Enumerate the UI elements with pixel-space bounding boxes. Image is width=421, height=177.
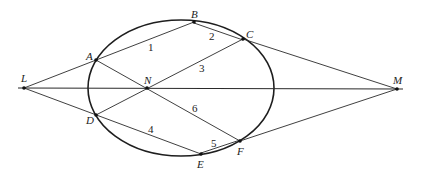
segment-label-2: 2 (209, 30, 215, 42)
segment-label-4: 4 (148, 123, 154, 135)
chord-EF (201, 140, 240, 153)
point-E (199, 152, 203, 156)
label-E: E (196, 158, 204, 170)
label-B: B (191, 8, 198, 20)
point-N (145, 86, 149, 90)
point-D (94, 113, 98, 117)
line-FM (240, 89, 397, 141)
label-D: D (85, 114, 94, 126)
line-CM (243, 39, 397, 89)
line-LM (18, 88, 403, 89)
label-M: M (392, 74, 403, 86)
point-B (192, 20, 196, 24)
segment-label-1: 1 (148, 41, 154, 53)
label-N: N (143, 74, 152, 86)
label-F: F (236, 145, 244, 157)
segment-label-5: 5 (211, 137, 217, 149)
segment-label-3: 3 (199, 62, 205, 74)
line-LDE (24, 88, 201, 154)
diagram-canvas: L M A B C N D E F 1 2 3 4 5 6 (0, 0, 421, 177)
geometry-diagram: L M A B C N D E F 1 2 3 4 5 6 (0, 0, 421, 177)
point-C (241, 37, 245, 41)
label-A: A (85, 50, 93, 62)
segment-label-6: 6 (192, 102, 198, 114)
label-C: C (246, 28, 254, 40)
line-DNC (96, 39, 243, 115)
point-A (94, 58, 98, 62)
point-F (238, 139, 242, 143)
point-L (22, 86, 26, 90)
point-M (395, 87, 399, 91)
label-L: L (20, 72, 27, 84)
line-ANF (96, 60, 240, 141)
line-LAB (24, 22, 194, 88)
